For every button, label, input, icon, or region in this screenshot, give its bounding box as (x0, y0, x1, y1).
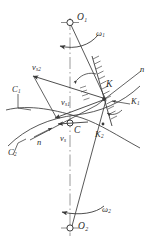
tangent-arc-lower (107, 110, 122, 114)
label-vs: vs (60, 134, 66, 144)
normal-line-n (30, 71, 141, 140)
label-c2: C2 (8, 148, 17, 158)
label-k2: K2 (95, 130, 104, 140)
label-o1: O1 (77, 13, 87, 24)
label-n-right: n (140, 65, 144, 74)
omega2-rotation-arrow (62, 206, 104, 214)
label-k: K (106, 80, 112, 90)
o2-marker (61, 225, 79, 231)
diagram-svg (0, 0, 156, 246)
velocity-triangle-side (34, 77, 56, 117)
label-c: C (74, 126, 80, 136)
contact-surface-hatched (92, 56, 117, 126)
label-omega1: ω1 (96, 29, 105, 39)
tangent-arc-upper (77, 73, 96, 80)
label-n-left: n (37, 138, 41, 147)
label-c1: C1 (12, 85, 21, 95)
label-o2: O2 (78, 222, 88, 233)
k2-node (102, 123, 105, 126)
vector-vs-aux (34, 128, 52, 137)
label-vs1: vs1 (61, 98, 70, 108)
figure-canvas: O1 ω1 vs2 vs1 C1 C2 K K1 K2 C vs n n ω2 … (0, 0, 156, 246)
label-k1: K1 (131, 97, 140, 107)
curve-c1 (6, 108, 140, 148)
label-omega2: ω2 (102, 205, 111, 215)
label-vs2: vs2 (32, 63, 41, 73)
